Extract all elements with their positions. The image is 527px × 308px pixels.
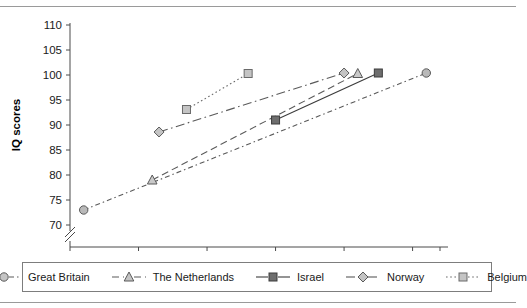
- y-tick-label: 75: [49, 194, 62, 206]
- data-point-marker: [124, 272, 134, 281]
- series-line: [159, 73, 344, 132]
- legend-item-the-netherlands[interactable]: The Netherlands: [112, 271, 234, 283]
- legend-item-label: The Netherlands: [153, 271, 234, 283]
- data-point-marker: [459, 273, 467, 281]
- legend-item-belgium[interactable]: Belgium: [446, 271, 527, 283]
- data-point-marker: [147, 175, 157, 184]
- x-axis: 1940195019601970198019901994: [57, 247, 453, 256]
- y-tick-label: 80: [49, 169, 62, 181]
- legend-marker-icon: [446, 271, 480, 283]
- series-line: [276, 73, 379, 120]
- data-point-marker: [0, 273, 8, 281]
- legend-item-norway[interactable]: Norway: [346, 271, 424, 283]
- data-point-marker: [339, 68, 349, 78]
- legend-marker-icon: [346, 271, 380, 283]
- y-tick-label: 85: [49, 144, 62, 156]
- bottom-divider: [0, 302, 516, 303]
- top-divider: [0, 6, 516, 7]
- data-point-marker: [80, 206, 88, 214]
- y-tick-label: 110: [44, 19, 62, 31]
- axis-break-mark: [65, 232, 75, 242]
- plot-area: 707580859095100105110 194019501960197019…: [0, 8, 516, 256]
- legend-marker-icon: [0, 271, 21, 283]
- data-series-group: [80, 68, 431, 214]
- x-tick-label: 1960: [194, 254, 220, 256]
- x-tick-label: 1950: [126, 254, 152, 256]
- series-norway: [154, 68, 349, 137]
- y-axis-title: IQ scores: [10, 99, 22, 151]
- legend-item-label: Norway: [387, 271, 424, 283]
- data-point-marker: [154, 127, 164, 137]
- y-axis: 707580859095100105110: [43, 19, 75, 247]
- x-tick-label: 1980: [331, 254, 357, 256]
- legend-item-israel[interactable]: Israel: [256, 271, 324, 283]
- data-point-marker: [269, 273, 277, 281]
- legend-item-great-britain[interactable]: Great Britain: [0, 271, 90, 283]
- x-tick-label: 1994: [427, 254, 453, 256]
- chart-legend: Great BritainThe NetherlandsIsraelNorway…: [22, 262, 492, 292]
- data-point-marker: [182, 106, 190, 114]
- x-tick-label: 1940: [57, 254, 83, 256]
- x-tick-label: 1990: [400, 254, 426, 256]
- legend-marker-icon: [112, 271, 146, 283]
- y-tick-label: 90: [49, 119, 62, 131]
- legend-marker-icon: [256, 271, 290, 283]
- series-line: [152, 74, 358, 181]
- series-line: [84, 73, 427, 210]
- series-belgium: [182, 70, 252, 114]
- y-tick-label: 70: [49, 219, 62, 231]
- x-tick-label: 1970: [263, 254, 289, 256]
- iq-scores-line-chart: 707580859095100105110 194019501960197019…: [0, 8, 516, 256]
- y-tick-label: 105: [43, 44, 62, 56]
- data-point-marker: [374, 69, 382, 77]
- series-the-netherlands: [147, 69, 362, 185]
- series-great-britain: [80, 69, 431, 214]
- data-point-marker: [353, 69, 363, 78]
- data-point-marker: [422, 69, 430, 77]
- y-tick-label: 100: [43, 69, 62, 81]
- y-tick-label: 95: [49, 94, 62, 106]
- series-line: [186, 74, 248, 110]
- legend-item-label: Great Britain: [28, 271, 90, 283]
- data-point-marker: [244, 70, 252, 78]
- legend-item-label: Belgium: [487, 271, 527, 283]
- legend-item-label: Israel: [297, 271, 324, 283]
- data-point-marker: [358, 272, 368, 282]
- series-israel: [272, 69, 383, 124]
- data-point-marker: [272, 116, 280, 124]
